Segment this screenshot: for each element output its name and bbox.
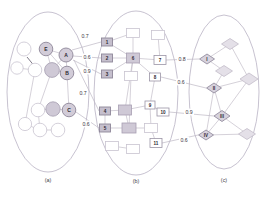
node-square-b16[interactable] [122,123,136,133]
node-square-b14[interactable] [125,72,138,81]
panel-caption-group: (a)(b)(c) [45,177,228,184]
node-circle-a5[interactable] [31,103,45,117]
edge-weight-label-ab-0: 0.7 [81,33,88,39]
inter-edge-ab-0 [72,42,101,50]
edge-weight-label-ab-2: 0.9 [83,68,90,74]
edge-b6-b15 [125,58,133,110]
panel-b-node-group: 1234567891011 [100,29,170,154]
node-square-b12[interactable] [127,29,140,38]
node-circle-a8[interactable] [33,123,47,137]
edge-weight-label-bc-0: 0.8 [178,56,185,62]
edge-cd1-cd3 [230,44,249,79]
node-circle-a9[interactable] [51,123,65,137]
edge-weight-label-ab-4: 0.6 [82,121,89,127]
node-label-10: 10 [160,110,166,115]
node-label-4: 4 [104,109,107,114]
panel-caption-b: (b) [133,178,140,184]
node-square-b15[interactable] [119,105,132,115]
node-label-B: B [65,70,69,76]
panel-outline-c [189,15,259,169]
node-label-I: I [206,57,207,62]
node-square-b19[interactable] [127,145,140,154]
node-label-1: 1 [106,40,109,45]
node-label-3: 3 [106,72,109,77]
three-layer-network-diagram: EABC 1234567891011 IIIIIIIV 0.70.60.90.7… [0,0,272,201]
node-label-A: A [64,52,68,58]
node-circle-a3[interactable] [28,63,42,77]
edge-weight-label-ab-1: 0.6 [83,54,90,60]
figure-canvas: EABC 1234567891011 IIIIIIIV 0.70.60.90.7… [0,0,272,201]
node-label-5: 5 [104,126,107,131]
node-label-2: 2 [106,56,109,61]
node-label-6: 6 [132,56,135,61]
panel-caption-c: (c) [221,177,227,183]
panel-caption-a: (a) [45,177,52,183]
edge-a3-a7 [25,70,35,124]
node-square-b18[interactable] [106,142,119,151]
edge-c4-c2 [206,88,214,135]
node-diamond-cd4[interactable] [239,129,256,140]
node-square-b17[interactable] [145,124,158,133]
edge-weight-label-ab-3: 0.7 [79,90,86,96]
node-circle-a6[interactable] [46,102,60,116]
node-circle-a1[interactable] [17,42,31,56]
node-circle-a2[interactable] [11,62,23,74]
edge-weight-label-bc-1: 0.6 [177,79,184,85]
panel-a-node-group: EABC [11,42,76,137]
node-label-C: C [67,107,71,113]
node-label-11: 11 [154,141,159,146]
node-diamond-cd3[interactable] [240,73,258,85]
node-label-8: 8 [154,75,157,80]
node-square-b13[interactable] [152,31,165,40]
edge-weight-label-bc-3: 0.6 [180,137,187,143]
node-label-III: III [220,114,224,119]
edge-weight-label-bc-2: 0.9 [185,109,192,115]
node-circle-a7[interactable] [18,117,31,130]
node-label-7: 7 [159,58,162,63]
panel-outline-a [7,12,89,172]
node-label-9: 9 [149,103,152,108]
node-label-II: II [213,86,216,91]
node-circle-a4[interactable] [45,63,60,78]
